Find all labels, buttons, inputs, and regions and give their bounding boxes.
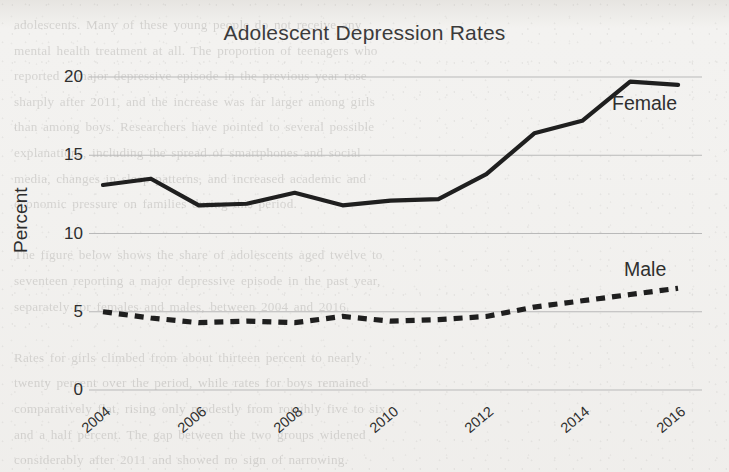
series-lines: [103, 82, 678, 323]
y-tick-label: 5: [37, 302, 83, 322]
chart-plot-area: [0, 0, 729, 472]
line-chart: Adolescent Depression Rates Percent 2015…: [0, 0, 729, 472]
series-label-female: Female: [612, 92, 677, 115]
y-tick-label: 0: [37, 380, 83, 400]
y-axis-label: Percent: [10, 188, 32, 253]
series-line-male: [103, 288, 678, 322]
series-label-male: Male: [624, 258, 666, 281]
y-tick-label: 10: [37, 224, 83, 244]
y-gridlines: [89, 77, 702, 390]
y-tick-label: 20: [37, 67, 83, 87]
y-tick-label: 15: [37, 145, 83, 165]
series-line-female: [103, 82, 678, 206]
